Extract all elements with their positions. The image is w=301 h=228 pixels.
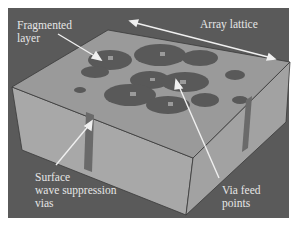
via-feed-points-label: Via feed points: [222, 184, 261, 210]
surface-wave-vias-label: Surface wave suppression vias: [35, 171, 116, 210]
fragmented-layer-label: Fragmented layer: [17, 19, 72, 45]
array-lattice-label: Array lattice: [200, 18, 258, 31]
